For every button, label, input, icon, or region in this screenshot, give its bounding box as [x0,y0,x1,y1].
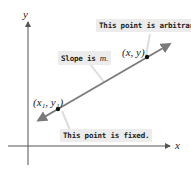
slope-leader [90,64,104,82]
fixed-leader [62,111,70,130]
fixed-point-label: (x₁, y₁) [33,96,63,108]
slope-variable: m. [100,53,108,63]
arbitrary-point-label: (x, y) [122,46,145,58]
arbitrary-point [145,55,149,59]
point-slope-diagram: y x (x, y) (x₁, y₁) This point is arbitr… [0,0,191,173]
slope-callout-prefix: Slope is [61,54,100,63]
x-axis-label: x [175,139,180,151]
y-axis-label: y [23,8,28,20]
arbitrary-callout: This point is arbitrary. [96,19,191,32]
fixed-callout: This point is fixed. [60,129,152,142]
slope-callout: Slope is m. [58,51,111,65]
line-left-arrow [38,109,58,121]
arbitrary-leader [146,34,150,55]
